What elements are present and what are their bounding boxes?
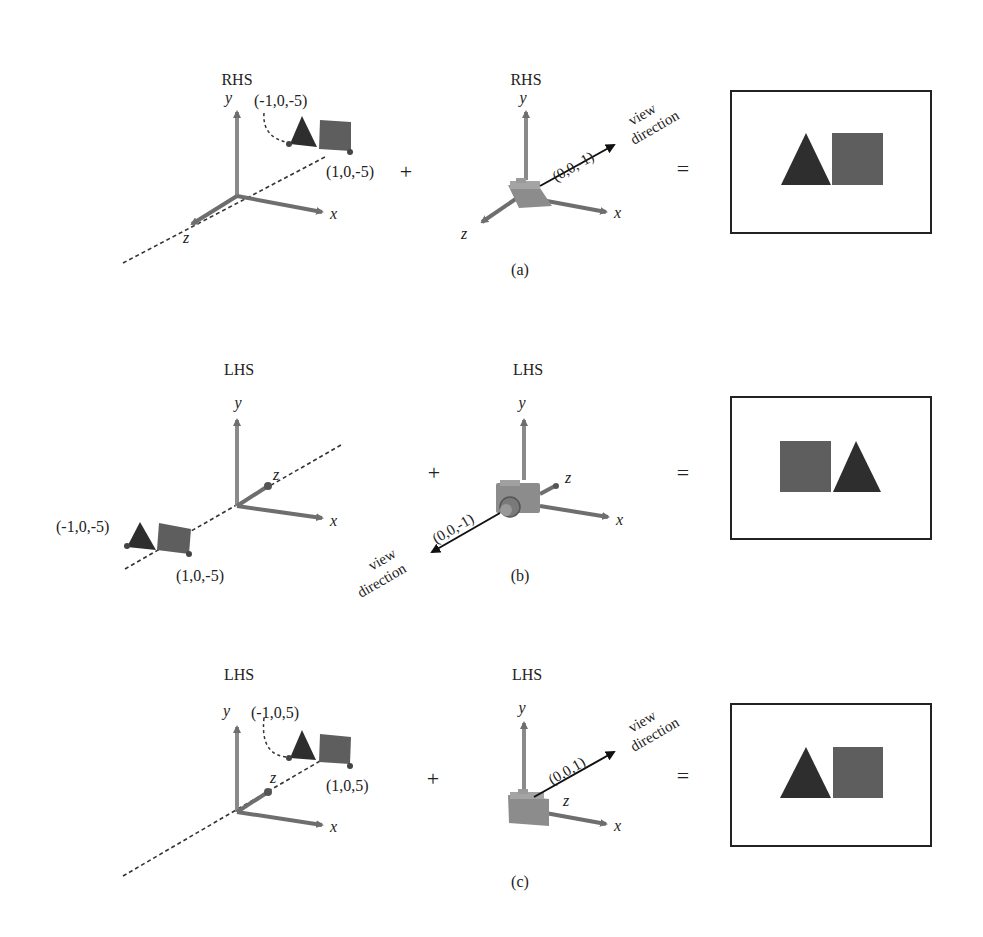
point-marker xyxy=(347,149,353,155)
panel-caption: (b) xyxy=(511,567,530,585)
z-axis-dashed-line xyxy=(123,157,325,263)
square-shape xyxy=(832,133,883,185)
point-marker xyxy=(286,755,292,761)
panel-a: RHS y x z (-1,0,-5) (1,0,-5) + RHS xyxy=(123,71,931,279)
x-axis-label: x xyxy=(329,512,337,529)
square-shape xyxy=(157,523,191,554)
y-axis-label: y xyxy=(516,699,526,717)
panel-caption: (c) xyxy=(511,873,529,891)
z-axis-tip xyxy=(553,483,559,489)
rendered-view-frame xyxy=(731,397,931,539)
y-axis-label: y xyxy=(232,394,242,412)
z-axis-label: z xyxy=(562,792,570,809)
x-axis-arrow xyxy=(540,506,608,517)
triangle-shape xyxy=(290,116,317,147)
point-right-label: (1,0,-5) xyxy=(176,567,224,585)
x-axis-arrow xyxy=(237,812,322,825)
point-marker xyxy=(286,141,292,147)
square-shape xyxy=(780,441,831,492)
panel-a-camera: RHS (0,0,-1) view direction y x z xyxy=(460,71,682,242)
system-label: LHS xyxy=(513,361,543,378)
equals-sign: = xyxy=(677,460,689,485)
x-axis-label: x xyxy=(613,817,621,834)
coordinate-systems-figure: RHS y x z (-1,0,-5) (1,0,-5) + RHS xyxy=(0,0,983,937)
y-axis-label: y xyxy=(223,89,233,107)
rendered-view-frame xyxy=(731,704,931,846)
z-axis-label: z xyxy=(564,469,572,486)
z-axis-arrow xyxy=(192,196,237,224)
point-left-label: (-1,0,-5) xyxy=(56,518,109,536)
z-axis-arrow xyxy=(237,486,268,506)
callout-curve xyxy=(263,718,287,757)
panel-b-world: LHS y x z (-1,0,-5) (1,0,-5) xyxy=(56,361,341,585)
point-marker xyxy=(186,551,192,557)
z-axis-label: z xyxy=(460,225,468,242)
direction-vector-label: (0,0,1) xyxy=(546,754,589,789)
z-axis-dashed-line xyxy=(125,445,341,569)
panel-a-world: RHS y x z (-1,0,-5) (1,0,-5) xyxy=(123,71,374,263)
system-label: LHS xyxy=(224,361,254,378)
x-axis-label: x xyxy=(329,818,337,835)
z-axis-arrow xyxy=(482,196,520,222)
camera-icon xyxy=(496,480,540,517)
x-axis-arrow xyxy=(237,506,322,518)
equals-sign: = xyxy=(677,763,689,788)
square-shape xyxy=(833,747,883,798)
y-axis-label: y xyxy=(221,702,231,720)
x-axis-label: x xyxy=(613,204,621,221)
point-right-label: (1,0,5) xyxy=(326,777,369,795)
square-shape xyxy=(319,734,351,764)
y-axis-label: y xyxy=(517,89,527,107)
callout-curve xyxy=(264,113,290,143)
y-axis-label: y xyxy=(516,394,526,412)
panel-c: LHS y x z (-1,0,5) (1,0,5) + LHS xyxy=(123,666,931,891)
system-label: RHS xyxy=(510,71,541,88)
point-right-label: (1,0,-5) xyxy=(326,163,374,181)
x-axis-label: x xyxy=(615,511,623,528)
z-axis-tip xyxy=(264,482,272,490)
z-axis-arrow xyxy=(540,486,555,494)
panel-b-camera: LHS (0,0,-1) view direction y x z xyxy=(355,361,624,601)
point-marker xyxy=(347,763,353,769)
system-label: RHS xyxy=(221,71,252,88)
direction-vector-label: (0,0,-1) xyxy=(550,148,597,185)
equals-sign: = xyxy=(677,156,689,181)
x-axis-arrow xyxy=(540,812,606,824)
plus-sign: + xyxy=(400,159,412,184)
direction-vector-label: (0,0,-1) xyxy=(430,510,477,547)
point-left-label: (-1,0,5) xyxy=(251,704,299,722)
z-axis-label: z xyxy=(182,229,190,246)
z-axis-label: z xyxy=(272,466,280,483)
z-axis-tip xyxy=(264,788,272,796)
system-label: LHS xyxy=(512,666,542,683)
panel-c-world: LHS y x z (-1,0,5) (1,0,5) xyxy=(123,666,369,876)
point-left-label: (-1,0,-5) xyxy=(254,92,307,110)
triangle-shape xyxy=(290,730,316,760)
point-marker xyxy=(124,543,130,549)
plus-sign: + xyxy=(428,460,440,485)
camera-icon xyxy=(508,789,549,826)
panel-c-camera: LHS (0,0,1) view direction y x z xyxy=(508,666,682,834)
x-axis-label: x xyxy=(329,205,337,222)
plus-sign: + xyxy=(427,766,439,791)
z-axis-label: z xyxy=(269,769,277,786)
panel-caption: (a) xyxy=(511,261,529,279)
x-axis-arrow xyxy=(237,196,322,212)
z-axis-arrow xyxy=(237,792,268,812)
system-label: LHS xyxy=(224,666,254,683)
rendered-view-frame xyxy=(731,91,931,233)
square-shape xyxy=(319,120,351,151)
triangle-shape xyxy=(127,522,156,550)
panel-b: LHS y x z (-1,0,-5) (1,0,-5) + LHS xyxy=(56,361,931,601)
